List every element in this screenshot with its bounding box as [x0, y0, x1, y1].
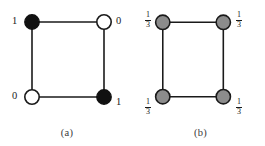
node-a-bottom-right[interactable]: [97, 90, 111, 104]
fraction-denominator: 3: [145, 108, 151, 116]
node-b-bottom-right[interactable]: [216, 90, 230, 104]
node-b-top-left[interactable]: [156, 15, 170, 29]
fraction-denominator: 3: [236, 108, 242, 116]
node-label-a-top-left: 1: [12, 16, 17, 27]
fraction-numerator: 1: [236, 11, 242, 19]
figure-two-panel-graphs: 1 0 0 1 (a) 1 3 1 3: [0, 0, 265, 146]
caption-a: (a): [0, 127, 132, 138]
node-fraction-b-top-left: 1 3: [145, 11, 151, 29]
node-a-bottom-left[interactable]: [25, 90, 39, 104]
node-a-top-left[interactable]: [25, 15, 39, 29]
node-label-a-top-right: 0: [116, 16, 121, 27]
node-fraction-b-bottom-right: 1 3: [236, 98, 242, 116]
panel-b: 1 3 1 3 1 3 1 3 (b): [132, 0, 265, 146]
fraction-denominator: 3: [145, 21, 151, 29]
fraction-numerator: 1: [145, 11, 151, 19]
node-fraction-b-top-right: 1 3: [236, 11, 242, 29]
fraction-numerator: 1: [236, 98, 242, 106]
fraction-denominator: 3: [236, 21, 242, 29]
panel-a: 1 0 0 1 (a): [0, 0, 132, 146]
node-fraction-b-bottom-left: 1 3: [145, 98, 151, 116]
node-b-bottom-left[interactable]: [156, 90, 170, 104]
caption-b: (b): [132, 127, 265, 138]
node-a-top-right[interactable]: [97, 15, 111, 29]
node-label-a-bottom-right: 1: [116, 97, 121, 108]
graph-a: [0, 0, 132, 118]
node-label-a-bottom-left: 0: [12, 91, 17, 102]
fraction-numerator: 1: [145, 98, 151, 106]
graph-b: [132, 0, 264, 118]
node-b-top-right[interactable]: [216, 15, 230, 29]
